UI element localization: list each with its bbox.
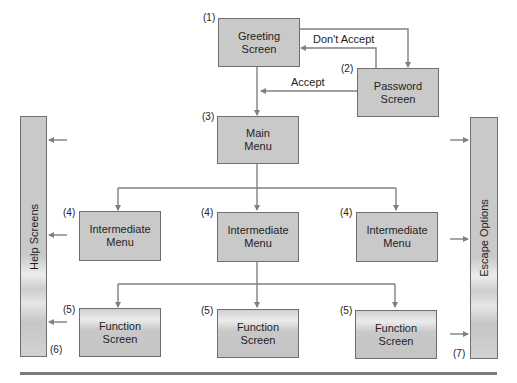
function-1-number: (5)	[63, 304, 75, 315]
main-menu-label-line2: Menu	[244, 140, 272, 153]
intermediate-1-label-line1: Intermediate	[89, 223, 150, 236]
bottom-rule-divider	[20, 372, 497, 375]
password-label-line1: Password	[374, 80, 422, 93]
help-screens-bar[interactable]: Help Screens	[20, 116, 47, 357]
escape-number: (7)	[453, 348, 465, 359]
accept-label: Accept	[291, 76, 325, 88]
intermediate-3-label-line1: Intermediate	[366, 224, 427, 237]
greeting-label-line2: Screen	[238, 43, 280, 56]
main-menu-label-line1: Main	[244, 127, 272, 140]
greeting-screen-box[interactable]: Greeting Screen	[218, 18, 300, 67]
function-3-number: (5)	[340, 305, 352, 316]
intermediate-1-label-line2: Menu	[89, 236, 150, 249]
password-label-line2: Screen	[374, 93, 422, 106]
greeting-label-line1: Greeting	[238, 30, 280, 43]
intermediate-menu-box-3[interactable]: Intermediate Menu	[356, 212, 438, 262]
function-screen-box-2[interactable]: Function Screen	[217, 309, 299, 358]
intermediate-2-label-line2: Menu	[227, 237, 288, 250]
intermediate-2-number: (4)	[201, 207, 213, 218]
help-number: (6)	[50, 344, 62, 355]
intermediate-menu-box-1[interactable]: Intermediate Menu	[79, 211, 161, 261]
help-screens-label: Help Screens	[28, 203, 40, 269]
function-2-label-line1: Function	[237, 321, 279, 334]
function-screen-box-3[interactable]: Function Screen	[355, 310, 437, 359]
intermediate-3-label-line2: Menu	[366, 237, 427, 250]
function-2-number: (5)	[201, 305, 213, 316]
main-menu-box[interactable]: Main Menu	[217, 116, 299, 164]
function-screen-box-1[interactable]: Function Screen	[79, 308, 161, 357]
function-1-label-line2: Screen	[99, 333, 141, 346]
dont-accept-label: Don't Accept	[313, 33, 374, 45]
password-number: (2)	[341, 63, 353, 74]
password-screen-box[interactable]: Password Screen	[357, 68, 439, 117]
main-menu-number: (3)	[202, 111, 214, 122]
escape-options-bar[interactable]: Escape Options	[470, 117, 498, 359]
function-3-label-line2: Screen	[375, 335, 417, 348]
function-2-label-line2: Screen	[237, 334, 279, 347]
greeting-number: (1)	[203, 12, 215, 23]
intermediate-3-number: (4)	[340, 207, 352, 218]
intermediate-2-label-line1: Intermediate	[227, 224, 288, 237]
function-3-label-line1: Function	[375, 322, 417, 335]
escape-options-label: Escape Options	[478, 199, 490, 277]
intermediate-menu-box-2[interactable]: Intermediate Menu	[217, 212, 299, 262]
function-1-label-line1: Function	[99, 320, 141, 333]
intermediate-1-number: (4)	[63, 207, 75, 218]
